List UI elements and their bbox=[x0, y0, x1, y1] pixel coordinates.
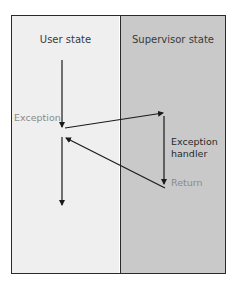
exception-transfer-arrow bbox=[65, 113, 163, 128]
exception-handler-label-line2: handler bbox=[171, 148, 218, 160]
exception-handler-label-line1: Exception bbox=[171, 136, 218, 148]
exception-label: Exception bbox=[14, 112, 61, 124]
exception-handler-label: Exception handler bbox=[171, 136, 218, 160]
return-label: Return bbox=[171, 177, 203, 189]
return-transfer-arrow bbox=[66, 138, 165, 188]
